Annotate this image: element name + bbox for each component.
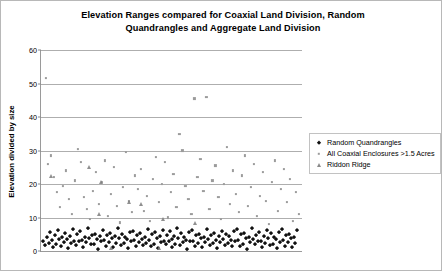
data-point: [268, 243, 273, 248]
data-point: [51, 245, 56, 250]
data-point: [203, 240, 208, 245]
data-point: [59, 244, 64, 249]
data-point: [241, 175, 243, 177]
data-point: [182, 235, 187, 240]
data-point: [146, 195, 148, 197]
data-point: [47, 163, 49, 165]
data-point: [130, 229, 135, 234]
data-point: [284, 233, 289, 238]
data-point: [202, 235, 207, 240]
data-point: [200, 245, 205, 250]
y-tick-label-40: 40: [29, 113, 37, 122]
data-point: [131, 238, 136, 243]
data-point: [292, 220, 294, 222]
data-point: [256, 239, 261, 244]
data-point: [199, 236, 204, 241]
data-point: [232, 229, 237, 234]
data-point: [286, 240, 291, 245]
data-point: [91, 242, 96, 247]
data-point: [70, 227, 75, 232]
data-point: [85, 226, 90, 231]
legend-item-2[interactable]: Riddon Ridge: [314, 159, 435, 170]
data-point: [83, 196, 85, 198]
y-axis-title-label: Elevation divided by size: [7, 105, 16, 197]
data-point: [137, 188, 139, 190]
data-point: [71, 239, 76, 244]
gridline-60: [41, 50, 302, 51]
data-point: [73, 243, 78, 248]
data-point: [179, 231, 184, 236]
data-point: [157, 246, 161, 250]
data-point: [235, 193, 237, 195]
data-point: [181, 240, 186, 245]
data-point: [110, 245, 115, 250]
data-point: [289, 178, 291, 180]
data-point: [151, 242, 156, 247]
data-point: [131, 211, 133, 213]
data-point: [250, 226, 255, 231]
data-point: [277, 210, 279, 212]
data-point: [239, 232, 244, 237]
data-point: [283, 244, 288, 249]
data-point: [229, 238, 234, 243]
y-tick-mark-30: [38, 150, 41, 151]
data-point: [232, 170, 234, 172]
data-point: [178, 133, 180, 135]
data-point: [119, 221, 121, 223]
legend-item-1[interactable]: All Coaxial Enclosures >1.5 Acres: [314, 148, 435, 159]
data-point: [215, 246, 220, 251]
data-point: [53, 233, 58, 238]
data-point: [265, 228, 270, 233]
data-point: [280, 188, 282, 190]
data-point: [197, 232, 202, 237]
data-point: [50, 154, 52, 156]
y-tick-label-60: 60: [29, 46, 37, 55]
data-point: [175, 226, 180, 231]
data-point: [266, 236, 271, 241]
data-point: [164, 233, 169, 238]
data-point: [260, 245, 265, 250]
data-point: [109, 236, 114, 241]
data-point: [205, 96, 207, 98]
data-point: [269, 231, 274, 236]
chart-title-line-2: Quandrangles and Aggregate Land Division: [47, 22, 399, 35]
data-point: [281, 238, 286, 243]
y-tick-label-20: 20: [29, 180, 37, 189]
data-point: [235, 227, 240, 232]
data-point: [259, 195, 261, 197]
y-tick-mark-50: [38, 83, 41, 84]
data-point: [245, 247, 250, 252]
data-point: [292, 235, 297, 240]
data-point: [208, 208, 210, 210]
data-point: [262, 234, 267, 239]
plot-area: 0102030405060: [40, 50, 302, 252]
y-tick-label-10: 10: [29, 213, 37, 222]
data-point: [92, 232, 97, 237]
data-point: [244, 236, 249, 241]
data-point: [221, 237, 226, 242]
data-point: [286, 201, 288, 203]
data-point: [229, 203, 231, 205]
data-point: [143, 241, 148, 246]
data-point: [94, 237, 99, 242]
data-point: [143, 210, 145, 212]
data-point: [208, 243, 213, 248]
data-point: [56, 228, 61, 233]
legend-marker-icon: [314, 160, 324, 170]
data-point: [290, 245, 295, 250]
legend-item-0[interactable]: Random Quandrangles: [314, 137, 435, 148]
data-point: [247, 205, 249, 207]
data-point: [83, 240, 88, 245]
data-point: [154, 156, 156, 158]
data-point: [293, 241, 298, 246]
data-point: [287, 232, 292, 237]
data-point: [178, 243, 183, 248]
data-point: [206, 237, 211, 242]
data-point: [193, 97, 195, 99]
data-point: [68, 241, 73, 246]
data-point: [220, 229, 225, 234]
data-point: [74, 180, 76, 182]
data-point: [157, 234, 162, 239]
data-point: [262, 171, 264, 173]
data-point: [277, 230, 282, 235]
